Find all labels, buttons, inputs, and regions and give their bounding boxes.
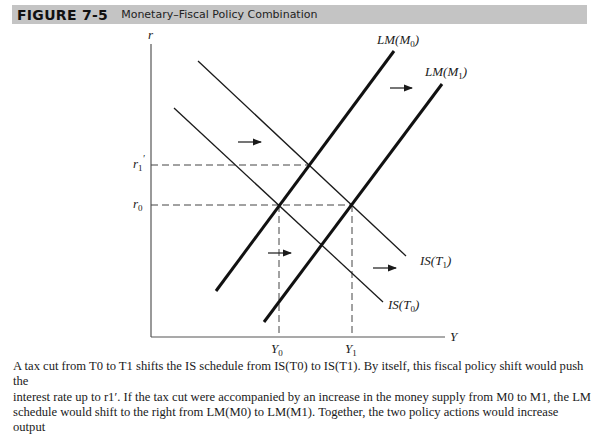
caption-line-2: interest rate up to r1′. If the tax cut … [13, 390, 593, 405]
r1-prime-tick: r1′ [133, 153, 146, 173]
y1-tick: Y1 [345, 341, 357, 358]
caption-line-1: A tax cut from T0 to T1 shifts the IS sc… [13, 359, 593, 390]
is-t1-label: IS(T1) [419, 253, 451, 270]
lm-m1-curve [264, 84, 442, 322]
is-t0-label: IS(T0) [387, 297, 419, 314]
x-axis-label: Y [450, 329, 459, 344]
caption-line-3: schedule would shift to the right from L… [13, 405, 593, 435]
figure-caption: A tax cut from T0 to T1 shifts the IS sc… [13, 359, 593, 435]
dashed-guides [151, 165, 352, 337]
y-axis-label: r [148, 27, 154, 42]
lm-m1-label: LM(M1) [424, 64, 467, 81]
y0-tick: Y0 [271, 341, 283, 358]
lm-m0-label: LM(M0) [376, 32, 419, 49]
r0-tick: r0 [133, 196, 143, 213]
